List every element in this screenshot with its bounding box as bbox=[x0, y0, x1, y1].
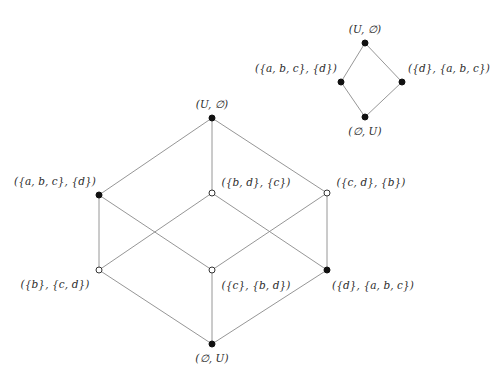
lattice-node-lc-top[interactable] bbox=[209, 115, 216, 122]
lattice-node-lc-bd-c[interactable] bbox=[209, 190, 216, 197]
lattice-edge bbox=[365, 43, 402, 82]
lattice-node-label-sd-bottom: (∅, U) bbox=[348, 125, 381, 137]
lattice-node-label-lc-top: (U, ∅) bbox=[196, 98, 228, 110]
lattice-node-label-sd-top: (U, ∅) bbox=[349, 23, 381, 35]
lattice-node-sd-bottom[interactable] bbox=[362, 114, 369, 121]
lattice-node-label-lc-c-bd: ({c}, {b, d}) bbox=[222, 279, 291, 291]
lattice-node-lc-abc-d[interactable] bbox=[96, 192, 103, 199]
lattice-node-sd-right[interactable] bbox=[399, 79, 406, 86]
edge-layer bbox=[0, 0, 501, 382]
lattice-edge bbox=[365, 82, 402, 117]
lattice-node-lc-c-bd[interactable] bbox=[209, 267, 216, 274]
lattice-node-label-lc-d-abc: ({d}, {a, b, c}) bbox=[332, 279, 414, 291]
lattice-node-label-lc-cd-b: ({c, d}, {b}) bbox=[337, 176, 406, 188]
lattice-node-label-lc-bottom: (∅, U) bbox=[195, 352, 228, 364]
lattice-node-lc-d-abc[interactable] bbox=[324, 267, 331, 274]
lattice-edge bbox=[99, 270, 212, 344]
lattice-node-lc-bottom[interactable] bbox=[209, 341, 216, 348]
lattice-node-sd-left[interactable] bbox=[338, 79, 345, 86]
lattice-node-label-lc-b-cd: ({b}, {c, d}) bbox=[21, 278, 90, 290]
lattice-node-label-lc-bd-c: ({b, d}, {c}) bbox=[222, 176, 291, 188]
lattice-node-lc-cd-b[interactable] bbox=[324, 190, 331, 197]
lattice-edge bbox=[99, 118, 212, 195]
lattice-edge bbox=[341, 43, 365, 82]
lattice-figure: (U, ∅)({a, b, c}, {d})({d}, {a, b, c})(∅… bbox=[0, 0, 501, 382]
lattice-node-label-sd-right: ({d}, {a, b, c}) bbox=[408, 62, 490, 74]
lattice-node-label-lc-abc-d: ({a, b, c}, {d}) bbox=[14, 175, 96, 187]
lattice-node-sd-top[interactable] bbox=[362, 40, 369, 47]
lattice-node-label-sd-left: ({a, b, c}, {d}) bbox=[255, 62, 337, 74]
lattice-node-lc-b-cd[interactable] bbox=[96, 267, 103, 274]
lattice-edge bbox=[341, 82, 365, 117]
